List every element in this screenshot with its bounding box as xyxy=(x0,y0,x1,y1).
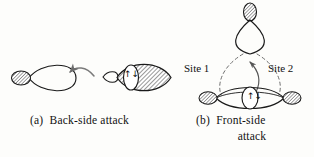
substrate-back-lobe xyxy=(103,72,118,83)
incoming-nucleophile-top-lobe xyxy=(244,3,257,21)
incoming-nucleophile-orbital xyxy=(236,20,265,54)
panel-b-caption-line-2: attack xyxy=(196,130,308,142)
site-1-label: Site 1 xyxy=(184,62,209,74)
substrate-right-lobe xyxy=(283,92,301,104)
panel-a-drawing xyxy=(12,64,172,90)
site-2-label: Site 2 xyxy=(268,62,293,74)
orbital-attack-figure: ↑↓ ↑↓ Site 1 Site 2 (a) Back-side attack… xyxy=(0,0,314,157)
substrate-left-lobe xyxy=(199,92,217,104)
panel-b-caption-line-1: (b) Front-side xyxy=(196,114,308,126)
electron-pair-symbol-a: ↑↓ xyxy=(124,70,139,79)
panel-a-caption: (a) Back-side attack xyxy=(30,114,160,126)
electron-pair-symbol-b: ↑↓ xyxy=(247,92,262,101)
site-1-dashed-path xyxy=(220,54,243,95)
site-2-dashed-path xyxy=(257,54,280,95)
nucleophile-p-orbital xyxy=(12,65,77,91)
attack-arrow xyxy=(70,68,94,76)
